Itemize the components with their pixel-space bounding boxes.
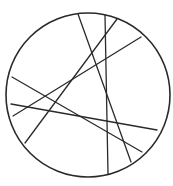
chord-6 <box>11 104 157 130</box>
chord-4 <box>13 37 141 116</box>
circle <box>6 13 170 177</box>
circle-chords-diagram <box>0 0 173 186</box>
chords-group <box>11 14 157 174</box>
chord-2 <box>105 15 108 174</box>
chord-5 <box>12 77 142 152</box>
chord-3 <box>25 19 117 143</box>
